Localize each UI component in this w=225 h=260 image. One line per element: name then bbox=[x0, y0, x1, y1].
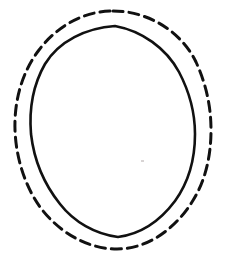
diagram-canvas bbox=[0, 0, 225, 260]
canvas-background bbox=[0, 0, 225, 260]
concentric-ovals-figure bbox=[0, 0, 225, 260]
gray-speck bbox=[141, 160, 144, 162]
